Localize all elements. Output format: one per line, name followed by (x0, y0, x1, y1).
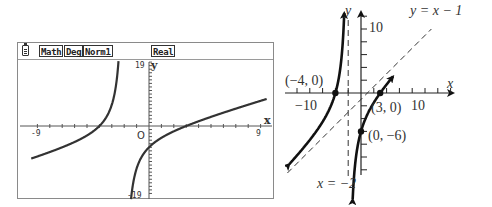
vertical-asymptote-label: x = −2 (316, 176, 356, 191)
point-label-neg4-0: (−4, 0) (285, 73, 324, 89)
y-axis-label: y (343, 3, 352, 18)
mode-tag-math: Math (39, 45, 63, 57)
point-label-0-neg6: (0, −6) (368, 128, 407, 144)
y-max-label: 19 (135, 61, 145, 70)
x-min-label: -9 (31, 129, 41, 138)
x-neg-label: −10 (295, 98, 317, 113)
calculator-screen: Math Deg Norm1 Real -9 9 19 -19 y x O (17, 42, 274, 199)
point-label-3-0: (3, 0) (371, 100, 402, 116)
function-curve-right-branch (131, 99, 267, 199)
origin-label: O (137, 130, 145, 141)
x-axis-label: x (446, 76, 454, 91)
function-curve-left-branch (289, 13, 344, 164)
x-max-label: 9 (256, 129, 261, 138)
key-point-2 (358, 128, 364, 134)
textbook-graph: −10 10 10 x y y = x − 1 x = −2 (−4, 0) (… (285, 0, 492, 207)
calculator-plot: -9 9 19 -19 y x O (18, 60, 275, 200)
x-pos-label: 10 (411, 98, 425, 113)
oblique-asymptote-label: y = x − 1 (408, 3, 462, 18)
key-point-0 (332, 90, 338, 96)
calculator-status-bar: Math Deg Norm1 Real (18, 43, 273, 60)
battery-icon (22, 45, 29, 56)
mode-tag-norm: Norm1 (83, 45, 113, 57)
mode-tag-real: Real (151, 45, 175, 57)
mode-tag-deg: Deg (64, 45, 83, 57)
x-axis-label: x (264, 114, 271, 127)
function-curve-left-branch (31, 61, 118, 158)
y-axis-label: y (150, 60, 158, 72)
y-pos-label: 10 (369, 20, 383, 35)
x-axis-ticks (297, 88, 451, 93)
y-min-label: -19 (127, 191, 142, 200)
key-point-1 (377, 90, 383, 96)
